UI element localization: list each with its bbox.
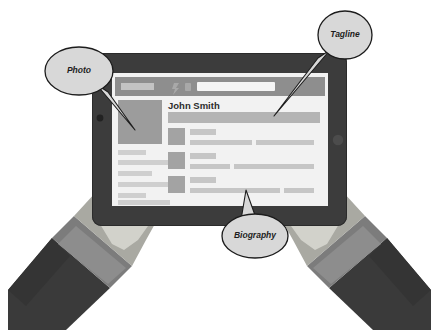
row-line xyxy=(190,188,280,193)
tagline-bar xyxy=(168,112,320,123)
row-thumb[interactable] xyxy=(168,176,185,193)
home-button[interactable] xyxy=(333,135,343,145)
sidebar-line xyxy=(118,171,152,176)
callout-biography-label: Biography xyxy=(234,230,277,240)
sidebar-line xyxy=(118,182,170,187)
callout-tagline-label: Tagline xyxy=(330,29,360,39)
row-line xyxy=(190,164,230,169)
sidebar-line xyxy=(118,150,146,155)
profile-photo[interactable] xyxy=(118,100,162,144)
sidebar-line xyxy=(118,160,170,165)
search-input[interactable] xyxy=(197,82,275,91)
row-heading xyxy=(190,129,216,135)
row-line xyxy=(284,188,314,193)
sidebar-line xyxy=(118,193,146,198)
logo-placeholder[interactable] xyxy=(121,83,154,90)
row-line xyxy=(190,140,252,145)
camera-dot xyxy=(97,115,104,122)
scene-svg: John Smith xyxy=(0,0,439,330)
page-title: John Smith xyxy=(168,100,220,111)
sidebar-line xyxy=(118,200,170,205)
tablet-device[interactable]: John Smith xyxy=(92,53,347,226)
row-heading xyxy=(190,153,216,159)
illustration-canvas: John Smith xyxy=(0,0,439,330)
row-line xyxy=(234,164,314,169)
row-thumb[interactable] xyxy=(168,152,185,169)
row-line xyxy=(256,140,314,145)
row-thumb[interactable] xyxy=(168,128,185,145)
row-heading xyxy=(190,177,216,183)
callout-photo-label: Photo xyxy=(67,65,91,75)
tablet-screen[interactable]: John Smith xyxy=(112,73,328,206)
header-icon-2[interactable] xyxy=(185,83,191,91)
